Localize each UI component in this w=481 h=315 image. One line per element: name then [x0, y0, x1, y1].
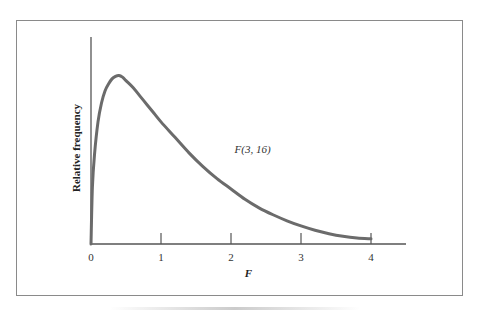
- y-axis-title: Relative frequency: [70, 103, 82, 192]
- x-tick-label: 0: [88, 251, 94, 263]
- series-line-f-3-16: [91, 75, 371, 244]
- chart: 01234 F Relative frequency F(3, 16): [0, 0, 481, 315]
- x-tick-label: 4: [368, 251, 374, 263]
- x-tick-label: 1: [158, 251, 164, 263]
- x-tick-label: 3: [298, 251, 304, 263]
- x-tick-label: 2: [228, 251, 234, 263]
- x-axis-title: F: [244, 267, 253, 279]
- distribution-annotation: F(3, 16): [234, 143, 271, 156]
